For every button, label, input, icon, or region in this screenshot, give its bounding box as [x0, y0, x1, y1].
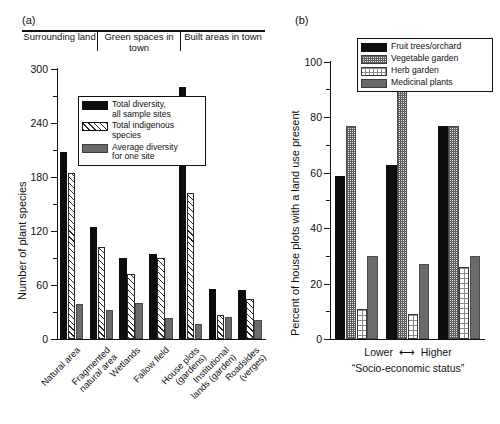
- panel-b-legend-label-3: Medicinal plants: [391, 78, 453, 88]
- panel-b-ticklabel-0: 0: [293, 334, 322, 345]
- legend-swatch-herb-garden-icon: [361, 67, 387, 76]
- figure-root: (a) Surrounding land Green spaces in tow…: [0, 0, 500, 424]
- panel-a-bar: [254, 320, 261, 339]
- panel-a-bar: [238, 290, 245, 340]
- panel-a-tick-300: [51, 69, 58, 70]
- panel-a-tick-120: [51, 231, 58, 232]
- panel-a-x-axis: [57, 339, 266, 340]
- panel-a-bar: [187, 193, 194, 339]
- panel-a-legend-item-total-diversity: Total diversity, all sample sites: [82, 100, 201, 119]
- panel-a-bar: [246, 299, 253, 339]
- panel-b-tick-80: [324, 117, 331, 118]
- panel-b-legend-item-vegetable-garden: Vegetable garden: [361, 54, 488, 64]
- panel-b-bar: [459, 267, 469, 339]
- panel-b-axis-arrow-icon: ⟷: [396, 346, 418, 358]
- panel-a-bar: [76, 304, 83, 339]
- panel-a-group-header-built-areas: Built areas in town: [181, 32, 265, 43]
- panel-b-bar: [470, 256, 480, 339]
- panel-a-bar: [209, 289, 216, 339]
- panel-b-bar: [408, 314, 418, 339]
- panel-a-ticklabel-60: 60: [18, 280, 48, 291]
- panel-a-legend-label-1: Total indigenous species: [112, 121, 174, 140]
- panel-a-group-header-surrounding-land: Surrounding land: [22, 32, 97, 43]
- panel-b-ticklabel-80: 80: [293, 112, 322, 123]
- panel-a-bar: [217, 315, 224, 339]
- panel-b-tick-60: [324, 173, 331, 174]
- panel-a-bar: [98, 247, 105, 339]
- legend-swatch-average-diversity-icon: [82, 144, 108, 153]
- panel-a-tick-0: [51, 339, 58, 340]
- legend-swatch-vegetable-garden-icon: [361, 55, 387, 64]
- panel-b-ticklabel-20: 20: [293, 279, 322, 290]
- panel-b-legend: Fruit trees/orchard Vegetable garden Her…: [357, 38, 493, 92]
- panel-a-ticklabel-120: 120: [18, 226, 48, 237]
- panel-b-legend-item-medicinal-plants: Medicinal plants: [361, 78, 488, 88]
- panel-b-tick-100: [324, 62, 331, 63]
- panel-b-tick-20: [324, 284, 331, 285]
- panel-b-bar: [419, 264, 429, 339]
- panel-a-tick-240: [51, 123, 58, 124]
- panel-a-legend-item-average-diversity: Average diversity for one site: [82, 143, 201, 162]
- panel-b-bar: [438, 126, 448, 339]
- panel-a-bar: [195, 324, 202, 339]
- panel-a-bar: [165, 318, 172, 339]
- panel-b-legend-item-herb-garden: Herb garden: [361, 66, 488, 76]
- panel-b-legend-label-0: Fruit trees/orchard: [391, 42, 461, 52]
- panel-b-ticklabel-40: 40: [293, 223, 322, 234]
- panel-a-bar: [68, 173, 75, 339]
- panel-b-letter: (b): [295, 14, 308, 26]
- panel-a-group-header-green-spaces: Green spaces in town: [98, 32, 180, 53]
- panel-a-bar: [106, 310, 113, 339]
- panel-b-bar: [397, 90, 407, 339]
- panel-b-plot-area: [331, 62, 485, 339]
- panel-a-legend-label-0: Total diversity, all sample sites: [112, 100, 171, 119]
- panel-a-legend: Total diversity, all sample sites Total …: [78, 96, 206, 166]
- legend-swatch-total-diversity-icon: [82, 101, 108, 110]
- panel-a-letter: (a): [22, 14, 35, 26]
- panel-b-legend-item-fruit-trees: Fruit trees/orchard: [361, 42, 488, 52]
- panel-b-legend-label-2: Herb garden: [391, 66, 439, 76]
- panel-b-axis-caption: “Socio-economic status”: [320, 362, 496, 374]
- panel-b-bar: [448, 126, 458, 339]
- panel-b-bar: [386, 165, 396, 340]
- panel-b-x-axis: [330, 339, 485, 340]
- panel-a-ticklabel-240: 240: [18, 118, 48, 129]
- panel-a-bar: [149, 254, 156, 340]
- legend-swatch-fruit-trees-icon: [361, 43, 387, 52]
- panel-a-ticklabel-300: 300: [18, 64, 48, 75]
- panel-a-legend-label-2: Average diversity for one site: [112, 143, 178, 162]
- panel-a-bar: [60, 152, 67, 339]
- panel-b-ticklabel-100: 100: [290, 57, 322, 68]
- panel-a-ticklabel-180: 180: [18, 172, 48, 183]
- panel-b-axis-direction: Lower ⟷ Higher: [333, 346, 483, 358]
- panel-b-tick-0: [324, 339, 331, 340]
- legend-swatch-medicinal-plants-icon: [361, 79, 387, 88]
- panel-a-legend-item-indigenous: Total indigenous species: [82, 121, 201, 140]
- panel-a-bar: [119, 258, 126, 339]
- legend-swatch-indigenous-icon: [82, 122, 108, 131]
- panel-a-tick-180: [51, 177, 58, 178]
- panel-b-bar: [346, 126, 356, 339]
- panel-b-bar: [357, 309, 367, 339]
- panel-b-axis-higher: Higher: [421, 346, 452, 358]
- panel-b-bar: [367, 256, 377, 339]
- panel-b-bar: [335, 176, 345, 339]
- panel-a-bar: [90, 227, 97, 340]
- panel-a-bar: [157, 258, 164, 339]
- panel-a-bar: [225, 317, 232, 339]
- panel-a-tick-60: [51, 285, 58, 286]
- panel-b-legend-label-1: Vegetable garden: [391, 54, 458, 64]
- panel-b-tick-40: [324, 228, 331, 229]
- panel-a-ticklabel-0: 0: [18, 334, 48, 345]
- panel-b-axis-lower: Lower: [364, 346, 393, 358]
- panel-a-bar: [127, 274, 134, 339]
- panel-a-bar: [135, 303, 142, 339]
- panel-b-ticklabel-60: 60: [293, 168, 322, 179]
